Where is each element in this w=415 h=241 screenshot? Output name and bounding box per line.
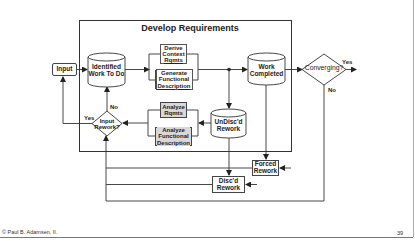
discd-rework-label: Disc'd Rework	[217, 178, 240, 192]
page-number: 39	[397, 230, 403, 236]
forced-rework-box[interactable]: Forced Rework	[252, 160, 279, 176]
derive-context-rqmts-label: Derive Context Rqmts	[160, 44, 186, 65]
converging-yes-label: Yes	[342, 59, 352, 65]
undiscd-rework-label: UnDisc'd Rework	[211, 119, 246, 132]
input-node[interactable]: Input	[52, 63, 77, 76]
input-rework-yes-label: Yes	[84, 115, 94, 121]
input-rework-label: Input Rework?	[93, 118, 121, 130]
converging-no-label: No	[328, 87, 336, 93]
copyright: © Paul B. Adamsen, II.	[2, 229, 57, 235]
analyze-functional-description-label: Analyze Functional Description	[157, 127, 190, 146]
generate-functional-description-label: Generate Functional Description	[156, 69, 193, 90]
discd-rework-box[interactable]: Disc'd Rework	[212, 176, 245, 193]
frame-title: Develop Requirements	[120, 24, 260, 33]
analyze-functional-description-box[interactable]: Analyze Functional Description	[155, 127, 192, 146]
diagram-canvas	[0, 0, 415, 241]
input-label: Input	[57, 66, 73, 73]
generate-functional-description-box[interactable]: Generate Functional Description	[155, 70, 193, 89]
work-completed-label: Work Completed	[248, 64, 285, 77]
derive-context-rqmts-box[interactable]: Derive Context Rqmts	[160, 45, 187, 63]
forced-rework-label: Forced Rework	[254, 161, 277, 175]
input-rework-no-label: No	[110, 104, 118, 110]
converging-label: Converging?	[300, 65, 348, 72]
analyze-rqmts-box[interactable]: Analyze Rqmts	[160, 102, 187, 118]
analyze-rqmts-label: Analyze Rqmts	[162, 104, 185, 117]
identified-work-label: Identified Work To Do	[88, 64, 125, 77]
